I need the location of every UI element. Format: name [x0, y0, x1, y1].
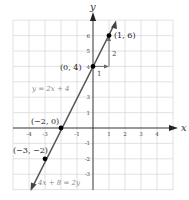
x-tick: 2 — [123, 131, 127, 137]
y-tick: 3 — [87, 94, 91, 100]
y-tick: -1 — [85, 140, 90, 146]
point-label: (−2, 0) — [31, 117, 59, 126]
x-tick: 3 — [139, 131, 143, 137]
x-tick: 1 — [107, 131, 111, 137]
y-tick: 6 — [87, 33, 91, 39]
coordinate-graph: x y -4 -3 -1 1 2 3 4 6 5 4 3 1 -1 -2 -3 … — [0, 0, 189, 200]
equation-slope-intercept: y = 2x + 4 — [31, 85, 69, 93]
y-axis-arrow-icon — [90, 12, 96, 21]
y-tick: 4 — [87, 64, 91, 70]
y-tick: -2 — [85, 156, 90, 162]
x-tick: -4 — [26, 131, 32, 137]
run-label: 1 — [97, 70, 101, 78]
x-tick: -1 — [74, 131, 79, 137]
x-axis-label: x — [181, 122, 187, 133]
point-neg3-neg2 — [43, 156, 48, 161]
point-0-4 — [91, 64, 96, 69]
y-axis-label: y — [89, 1, 96, 12]
x-tick: -3 — [42, 131, 48, 137]
y-tick: 5 — [87, 48, 91, 54]
graph-line — [31, 21, 118, 192]
equation-standard: 4x + 8 = 2y — [37, 179, 81, 187]
y-tick-labels: 6 5 4 3 1 -1 -2 -3 — [85, 33, 91, 178]
x-tick: 4 — [155, 131, 159, 137]
y-axis — [90, 12, 96, 190]
line-arrow-top-icon — [111, 21, 117, 30]
y-tick: 1 — [87, 110, 91, 116]
point-neg2-0 — [59, 126, 64, 131]
run-arrow-icon — [104, 64, 109, 68]
point-label: (1, 6) — [114, 31, 136, 40]
rise-label: 2 — [112, 50, 116, 58]
point-label: (0, 4) — [60, 63, 82, 72]
y-tick: -3 — [85, 171, 91, 177]
point-label: (−3, −2) — [13, 146, 48, 155]
slope-triangle — [93, 36, 111, 68]
x-axis-arrow-icon — [169, 125, 178, 131]
point-1-6 — [107, 33, 112, 38]
